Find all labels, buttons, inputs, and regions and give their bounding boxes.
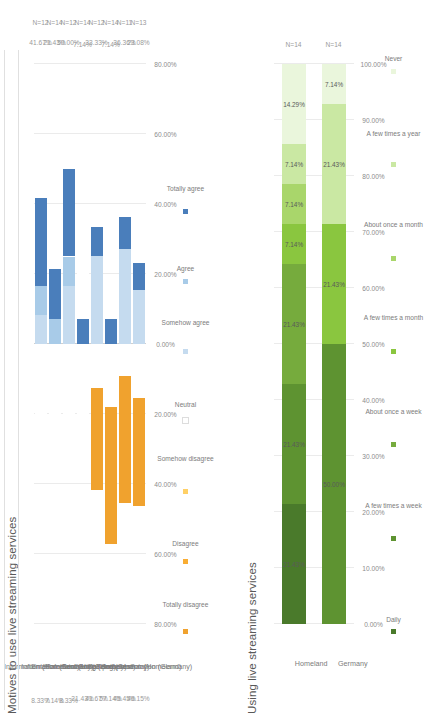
chart-usage-plot: 21.43%21.43%21.43%7.14%7.14%7.14%14.29%2…: [274, 64, 354, 624]
sample-size-value: N=13: [131, 19, 147, 26]
bar-segment-label: 7.14%: [274, 232, 314, 256]
chart-usage: Using live streaming services 21.43%21.4…: [240, 0, 412, 720]
legend-item[interactable]: Somehow agree: [182, 299, 189, 354]
category-label: Self-presentation (Germany): [102, 662, 178, 671]
bar-segment-somehow-agree: [35, 315, 48, 344]
bar-segment-totally-agree: [91, 227, 104, 256]
legend-label: Totally disagree: [163, 601, 209, 608]
legend-label: Agree: [177, 265, 195, 272]
legend-swatch: [391, 349, 396, 354]
bar: [77, 64, 90, 624]
axis-tick-label: 30.00%: [356, 453, 392, 460]
legend-label: Totally agree: [167, 185, 204, 192]
legend-label: Somehow disagree: [157, 455, 213, 462]
axis-tick-label: 40.00%: [356, 397, 392, 404]
legend-label: Disagree: [172, 540, 198, 547]
bar-segment-neutral: [105, 282, 118, 407]
bar-segment-totally-disagree: [91, 373, 104, 490]
category-label: Germany: [302, 659, 368, 668]
bar-segment-neutral: [49, 219, 62, 469]
bar: 21.43%21.43%21.43%7.14%7.14%7.14%14.29%2…: [282, 64, 306, 624]
legend-label: Daily: [386, 616, 401, 623]
legend-swatch: [391, 442, 396, 447]
bar-segment-somehow-agree: [91, 257, 104, 345]
bar-segment-totally-agree: [133, 263, 146, 290]
legend-label: About once a week: [365, 409, 421, 416]
legend-swatch: [183, 349, 188, 354]
chart-motives: Motives to use live streaming services 8…: [0, 0, 206, 720]
chart-motives-title: Motives to use live streaming services: [6, 517, 18, 714]
bar-segment-agree: [63, 257, 76, 286]
legend-item[interactable]: A few times a month: [390, 288, 397, 354]
bar: [35, 64, 48, 624]
bar: [105, 64, 118, 624]
axis-tick-label: 0.00%: [150, 341, 182, 348]
axis-tick-label: 80.00%: [150, 621, 182, 628]
legend-swatch: [391, 256, 396, 261]
bar-segment-agree: [49, 319, 62, 344]
bar: [49, 64, 62, 624]
axis-tick-label: 90.00%: [356, 117, 392, 124]
bar-segment-totally-agree: [63, 169, 76, 257]
legend-swatch: [391, 629, 396, 634]
chart-usage-title: Using live streaming services: [246, 562, 258, 714]
legend-label: Somehow agree: [161, 319, 209, 326]
legend-swatch: [182, 417, 189, 424]
legend-item[interactable]: About once a month: [390, 195, 397, 261]
bar-segment-label: 21.43%: [234, 552, 354, 576]
chart-motives-plot: [34, 64, 146, 624]
bar-segment-label: 21.43%: [234, 432, 354, 456]
legend-item[interactable]: Disagree: [182, 531, 189, 564]
axis-tick-label: 10.00%: [356, 565, 392, 572]
column-separator: [18, 50, 19, 710]
bar-segment-somehow-agree: [133, 290, 146, 344]
bar-segment-label: 7.14%: [314, 72, 354, 96]
legend-item[interactable]: Totally disagree: [182, 581, 189, 634]
bar-segment-label: 21.43%: [274, 272, 394, 296]
bar-segment-totally-disagree: [105, 394, 118, 544]
legend-item[interactable]: Totally agree: [182, 170, 189, 214]
bar: 50.00%21.43%21.43%7.14%50.00%21.43%21.43…: [322, 64, 346, 624]
axis-tick-label: 60.00%: [150, 131, 182, 138]
bar-segment-label: 50.00%: [194, 472, 428, 496]
axis-tick-label: 70.00%: [356, 229, 392, 236]
sample-size-value: N=14: [326, 41, 342, 48]
legend-item[interactable]: Neutral: [182, 394, 189, 424]
legend-item[interactable]: Agree: [182, 259, 189, 284]
bar-segment-agree: [35, 286, 48, 315]
axis-tick-label: 40.00%: [150, 481, 182, 488]
legend-swatch: [391, 536, 396, 541]
legend-item[interactable]: Daily: [390, 612, 397, 634]
legend-swatch: [183, 279, 188, 284]
bar-segment-neutral: [77, 219, 90, 469]
axis-tick-label: 50.00%: [356, 341, 392, 348]
legend-item[interactable]: Never: [390, 49, 397, 74]
legend-swatch: [391, 69, 396, 74]
bar-segment-label: 21.43%: [234, 312, 354, 336]
legend-swatch: [183, 209, 188, 214]
legend-swatch: [183, 489, 188, 494]
legend-label: Neutral: [175, 401, 196, 408]
agree-total-value: 23.08%: [127, 39, 149, 46]
bar-segment-totally-agree: [49, 269, 62, 319]
sample-size-value: N=14: [286, 41, 302, 48]
legend-label: A few times a week: [365, 502, 421, 509]
legend-label: About once a month: [364, 221, 423, 228]
legend-swatch: [183, 629, 188, 634]
bar: [119, 64, 132, 624]
bar-segment-totally-agree: [105, 319, 118, 344]
bar-segment-label: 21.43%: [274, 152, 394, 176]
column-separator-2: [4, 50, 5, 710]
legend-label: Never: [385, 55, 403, 62]
bar-segment-label: 7.14%: [274, 192, 314, 216]
bar-segment-somehow-agree: [63, 286, 76, 344]
legend-item[interactable]: About once a week: [390, 384, 397, 447]
bar: [91, 64, 104, 624]
bar: [133, 64, 146, 624]
axis-tick-label: 20.00%: [150, 411, 182, 418]
axis-tick-label: 40.00%: [150, 201, 182, 208]
axis-tick-label: 60.00%: [150, 551, 182, 558]
legend-item[interactable]: Somehow disagree: [182, 431, 189, 494]
bar-segment-totally-agree: [77, 319, 90, 344]
